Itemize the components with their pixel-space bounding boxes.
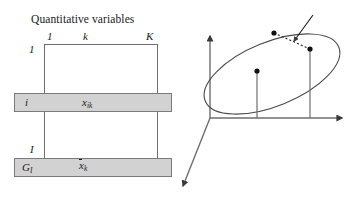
cloud-panel: RK O k NI Ml Mi GI d2(i, l) xk xik <box>180 0 361 198</box>
point-M-i <box>307 46 312 51</box>
figure-root: Quantitative variables 1 k K 1 I i xik G… <box>0 0 361 198</box>
mean-row-value: xk <box>79 160 87 172</box>
point-M-l <box>271 30 276 35</box>
mean-row-label-sub: I <box>30 166 33 175</box>
highlighted-row-label: i <box>25 97 28 108</box>
table-title: Quantitative variables <box>31 14 134 26</box>
mean-row-value-base: x <box>79 160 84 171</box>
highlighted-row-value-sub: ik <box>87 101 92 110</box>
annotation-arrow <box>294 15 313 41</box>
row-header-last: I <box>30 144 34 155</box>
mean-row-value-sub: k <box>84 164 87 173</box>
quantitative-variables-panel: Quantitative variables 1 k K 1 I i xik G… <box>0 0 180 198</box>
mean-row-band <box>14 158 172 177</box>
column-header-first: 1 <box>47 31 53 42</box>
mean-row-label: GI <box>22 162 32 174</box>
highlighted-row-value: xik <box>82 97 92 109</box>
depth-axis <box>183 118 210 186</box>
cloud-diagram-svg <box>180 0 361 198</box>
point-G-I <box>254 68 259 73</box>
column-header-last: K <box>146 31 153 42</box>
highlighted-row-band <box>14 93 172 112</box>
mean-row-label-base: G <box>22 161 30 173</box>
row-header-first: 1 <box>29 44 35 55</box>
column-header-generic: k <box>83 31 88 42</box>
